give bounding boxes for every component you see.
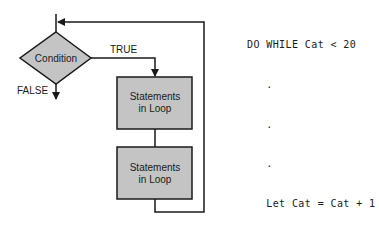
box-1-line-1: Statements bbox=[130, 91, 181, 102]
code-line: Let Cat = Cat + 1 bbox=[247, 197, 375, 210]
box-2-line-2: in Loop bbox=[139, 174, 172, 185]
condition-label: Condition bbox=[35, 53, 77, 64]
false-label: FALSE bbox=[17, 85, 48, 96]
code-line: . bbox=[247, 118, 375, 131]
true-label: TRUE bbox=[110, 44, 138, 55]
pseudo-code: DO WHILE Cat < 20 . . . Let Cat = Cat + … bbox=[247, 12, 375, 225]
statements-box-2 bbox=[117, 147, 192, 199]
code-line: . bbox=[247, 78, 375, 91]
code-line: DO WHILE Cat < 20 bbox=[247, 38, 375, 51]
code-line: . bbox=[247, 157, 375, 170]
box-1-line-2: in Loop bbox=[139, 103, 172, 114]
true-branch-arrow bbox=[91, 58, 155, 76]
box-2-line-1: Statements bbox=[130, 162, 181, 173]
